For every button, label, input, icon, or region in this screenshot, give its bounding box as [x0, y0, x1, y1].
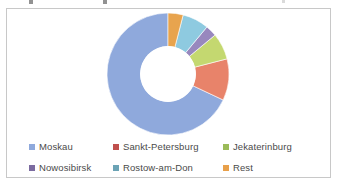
legend-swatch-icon [223, 144, 229, 150]
legend-item-rest[interactable]: Rest [223, 158, 330, 177]
legend-item-sankt-petersburg[interactable]: Sankt-Petersburg [113, 137, 223, 156]
legend-item-jekaterinburg[interactable]: Jekaterinburg [223, 137, 330, 156]
chart-frame: Moskau Sankt-Petersburg Jekaterinburg No… [6, 8, 331, 178]
legend-swatch-icon [113, 144, 119, 150]
legend-swatch-icon [113, 165, 119, 171]
cropped-text-marks [0, 0, 345, 7]
crop-mark [29, 0, 33, 4]
legend-item-moskau[interactable]: Moskau [7, 137, 113, 156]
legend-item-nowosibirsk[interactable]: Nowosibirsk [7, 158, 113, 177]
legend-swatch-icon [223, 165, 229, 171]
legend-label: Rest [233, 162, 253, 173]
crop-mark [282, 0, 285, 3]
legend-swatch-icon [29, 165, 35, 171]
plot-area [7, 9, 330, 134]
chart-legend: Moskau Sankt-Petersburg Jekaterinburg No… [7, 134, 330, 177]
crop-mark [103, 0, 107, 4]
legend-label: Moskau [39, 141, 73, 152]
legend-label: Rostow-am-Don [123, 162, 193, 173]
legend-row: Moskau Sankt-Petersburg Jekaterinburg [7, 137, 330, 156]
donut-hole [140, 46, 196, 102]
legend-row: Nowosibirsk Rostow-am-Don Rest [7, 158, 330, 177]
legend-label: Nowosibirsk [39, 162, 91, 173]
donut-chart [106, 12, 230, 136]
legend-item-rostow-am-don[interactable]: Rostow-am-Don [113, 158, 223, 177]
legend-swatch-icon [29, 144, 35, 150]
legend-label: Jekaterinburg [233, 141, 292, 152]
donut-svg [106, 12, 230, 136]
legend-label: Sankt-Petersburg [123, 141, 199, 152]
